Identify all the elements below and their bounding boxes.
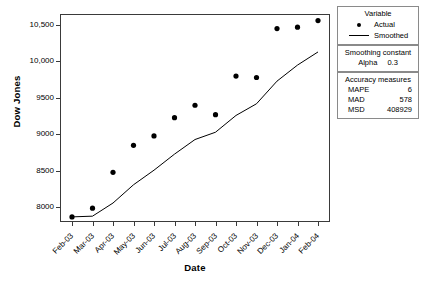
legend-item-smoothed: Smoothed: [338, 30, 418, 41]
accuracy-value: 6: [408, 85, 412, 95]
data-point: [213, 112, 218, 117]
legend-item-actual: Actual: [338, 19, 418, 30]
x-axis-tick-mark: [175, 222, 176, 226]
data-point: [172, 115, 177, 120]
smoothed-line: [72, 52, 318, 217]
legend-title: Variable: [338, 9, 418, 18]
y-axis-tick-label: 10,500: [8, 20, 54, 29]
actual-data-points: [69, 18, 320, 220]
x-axis-tick-mark: [72, 222, 73, 226]
accuracy-row-mad: MAD 578: [338, 95, 418, 105]
chart-canvas: Dow Jones 800085009000950010,00010,500 F…: [0, 0, 423, 282]
x-axis-tick-mark: [257, 222, 258, 226]
x-axis-tick-mark: [277, 222, 278, 226]
data-point: [110, 170, 115, 175]
smoothing-constant-title: Smoothing constant: [338, 48, 418, 57]
x-axis-tick-mark: [113, 222, 114, 226]
data-point: [315, 18, 320, 23]
data-point: [131, 143, 136, 148]
alpha-label: Alpha: [358, 58, 377, 68]
data-point: [254, 75, 259, 80]
caption-strip: [8, 276, 408, 282]
accuracy-key: MAPE: [348, 85, 369, 95]
data-point: [233, 73, 238, 78]
accuracy-row-mape: MAPE 6: [338, 85, 418, 95]
data-point: [295, 25, 300, 30]
y-axis-tick-labels: 800085009000950010,00010,500: [6, 0, 54, 282]
x-axis-tick-mark: [134, 222, 135, 226]
accuracy-measures-box: Accuracy measures MAPE 6 MAD 578 MSD 408…: [337, 72, 419, 119]
accuracy-key: MAD: [348, 95, 365, 105]
accuracy-value: 578: [399, 95, 412, 105]
y-axis-tick-label: 8000: [8, 202, 54, 211]
y-axis-tick-label: 10,000: [8, 56, 54, 65]
legend-item-label: Actual: [370, 20, 395, 29]
x-axis-tick-mark: [195, 222, 196, 226]
plot-series-layer: [60, 14, 330, 222]
accuracy-row-msd: MSD 408929: [338, 105, 418, 115]
x-axis-tick-mark: [154, 222, 155, 226]
accuracy-value: 408929: [387, 105, 412, 115]
y-axis-tick-label: 9000: [8, 129, 54, 138]
data-point: [90, 206, 95, 211]
accuracy-key: MSD: [348, 105, 365, 115]
x-axis-tick-mark: [216, 222, 217, 226]
legend-item-label: Smoothed: [370, 31, 408, 40]
line-swatch-icon: [348, 35, 370, 36]
alpha-value: 0.3: [387, 58, 397, 68]
smoothing-constant-box: Smoothing constant Alpha 0.3: [337, 45, 419, 72]
legend-box: Variable Actual Smoothed: [337, 6, 419, 45]
filled-circle-icon: [348, 23, 370, 27]
x-axis-tick-mark: [93, 222, 94, 226]
data-point: [151, 133, 156, 138]
data-point: [274, 26, 279, 31]
y-axis-tick-label: 9500: [8, 93, 54, 102]
alpha-row: Alpha 0.3: [338, 58, 418, 68]
x-axis-tick-mark: [318, 222, 319, 226]
data-point: [192, 103, 197, 108]
x-axis-tick-mark: [298, 222, 299, 226]
y-axis-tick-label: 8500: [8, 166, 54, 175]
x-axis-tick-mark: [236, 222, 237, 226]
data-point: [69, 214, 74, 219]
x-axis-title: Date: [0, 262, 390, 273]
accuracy-measures-title: Accuracy measures: [338, 75, 418, 84]
